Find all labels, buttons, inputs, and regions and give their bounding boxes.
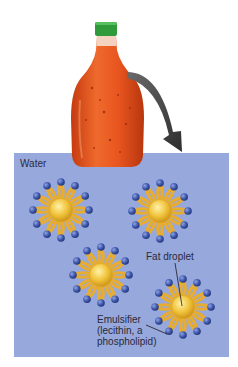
emulsifier-label-line2: (lecithin, a (97, 325, 157, 336)
water-label: Water (20, 158, 46, 169)
emulsion-diagram (0, 0, 238, 367)
emulsifier-label-line1: Emulsifier (97, 314, 157, 325)
fat-droplet-label: Fat droplet (146, 251, 194, 262)
salad-dressing-bottle-icon (71, 22, 144, 167)
emulsifier-label-line3: phospholipid) (97, 336, 157, 347)
emulsifier-label: Emulsifier (lecithin, a phospholipid) (97, 314, 157, 347)
